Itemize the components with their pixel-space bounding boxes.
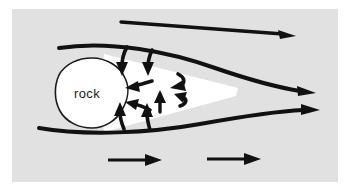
flow-arrow-bottom-left: [108, 154, 162, 166]
streamline-top: [121, 22, 296, 39]
rock-label: rock: [74, 86, 100, 101]
flow-diagram-figure: rock: [0, 0, 351, 192]
flow-diagram-canvas: rock: [0, 0, 351, 192]
flow-arrow-bottom-right: [207, 153, 261, 165]
